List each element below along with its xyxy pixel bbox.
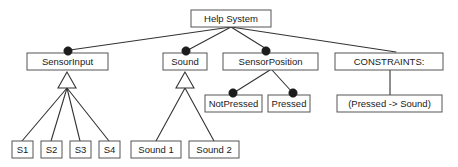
nodes-layer: Help SystemSensorInputSoundSensorPositio… — [12, 10, 443, 158]
node-label-sound: Sound — [171, 56, 198, 67]
edge-sensor-input-to-s2 — [51, 88, 67, 141]
edge-sensor-position-to-not-pressed — [235, 70, 270, 92]
node-label-sensor-position: SensorPosition — [239, 56, 303, 67]
node-label-s4: S4 — [104, 144, 116, 155]
edge-sound-to-sound1 — [156, 88, 185, 141]
node-constraints[interactable]: CONSTRAINTS: — [335, 53, 443, 70]
node-sound1[interactable]: Sound 1 — [131, 141, 181, 158]
node-label-constraint-rule: (Pressed -> Sound) — [348, 98, 431, 109]
not-pressed-aggregation-icon — [229, 89, 237, 97]
edge-sensor-position-to-pressed — [272, 70, 292, 92]
sensor-input-generalization — [58, 72, 76, 88]
node-label-pressed: Pressed — [272, 98, 307, 109]
diagram-canvas: Help SystemSensorInputSoundSensorPositio… — [0, 0, 458, 167]
help-system-diagram: Help SystemSensorInputSoundSensorPositio… — [0, 0, 458, 167]
node-label-sound1: Sound 1 — [138, 144, 173, 155]
node-s3[interactable]: S3 — [70, 141, 91, 158]
pressed-aggregation-icon — [289, 89, 297, 97]
node-constraint-rule[interactable]: (Pressed -> Sound) — [337, 95, 442, 112]
edges-layer — [22, 27, 396, 141]
sensor-input-aggregation-icon — [64, 47, 72, 55]
edge-help-system-to-sensor-position — [231, 27, 268, 50]
node-sound[interactable]: Sound — [163, 53, 207, 70]
node-not-pressed[interactable]: NotPressed — [205, 95, 262, 112]
node-s1[interactable]: S1 — [12, 141, 33, 158]
sensor-position-aggregation-icon — [262, 47, 270, 55]
node-sensor-position[interactable]: SensorPosition — [223, 53, 318, 70]
node-pressed[interactable]: Pressed — [268, 95, 310, 112]
node-sound2[interactable]: Sound 2 — [189, 141, 239, 158]
generalization-markers-layer — [58, 72, 194, 88]
node-label-s3: S3 — [75, 144, 87, 155]
node-label-help-system: Help System — [204, 13, 258, 24]
node-s4[interactable]: S4 — [99, 141, 120, 158]
node-s2[interactable]: S2 — [41, 141, 62, 158]
node-label-s1: S1 — [17, 144, 29, 155]
edge-help-system-to-constraints — [231, 27, 396, 52]
node-label-constraints: CONSTRAINTS: — [354, 56, 425, 67]
node-label-sensor-input: SensorInput — [42, 56, 94, 67]
node-label-sound2: Sound 2 — [196, 144, 231, 155]
node-help-system[interactable]: Help System — [191, 10, 271, 27]
node-label-not-pressed: NotPressed — [209, 98, 259, 109]
edge-help-system-to-sensor-input — [70, 27, 231, 50]
sound-aggregation-icon — [182, 47, 190, 55]
node-label-s2: S2 — [46, 144, 58, 155]
edge-sensor-input-to-s1 — [22, 88, 67, 141]
node-sensor-input[interactable]: SensorInput — [27, 53, 108, 70]
sound-generalization — [176, 72, 194, 88]
